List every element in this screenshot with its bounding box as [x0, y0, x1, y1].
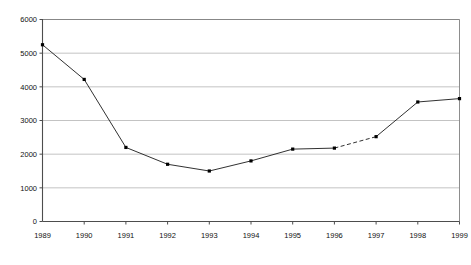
x-axis-ticks: 1989199019911992199319941995199619971998…	[34, 222, 468, 240]
data-line-segment	[168, 164, 210, 171]
gridlines-horizontal	[43, 20, 460, 188]
data-line-segment	[251, 149, 293, 161]
x-axis-tick-label: 1995	[284, 231, 301, 240]
y-axis-tick-label: 5000	[20, 49, 37, 58]
data-point-marker	[166, 163, 169, 166]
data-point-marker	[249, 159, 252, 162]
line-chart: 0100020003000400050006000198919901991199…	[0, 0, 471, 265]
y-axis-tick-label: 0	[33, 217, 37, 226]
data-line	[43, 45, 460, 171]
x-axis-tick-label: 1989	[34, 231, 51, 240]
data-line-segment	[209, 161, 251, 171]
data-line-segment	[334, 137, 376, 148]
data-line-segment	[418, 99, 460, 102]
data-line-segment	[43, 45, 85, 80]
data-point-marker	[416, 100, 419, 103]
data-point-marker	[83, 78, 86, 81]
x-axis-tick-label: 1990	[76, 231, 93, 240]
x-axis-tick-label: 1997	[368, 231, 385, 240]
data-point-marker	[333, 147, 336, 150]
data-point-marker	[41, 43, 44, 46]
y-axis-tick-label: 2000	[20, 150, 37, 159]
x-axis-tick-label: 1999	[451, 231, 468, 240]
data-line-segment	[84, 79, 126, 147]
y-axis-tick-label: 4000	[20, 83, 37, 92]
y-axis-tick-label: 6000	[20, 15, 37, 24]
chart-screenshot: 0100020003000400050006000198919901991199…	[0, 0, 471, 265]
y-axis-tick-label: 1000	[20, 184, 37, 193]
x-axis-tick-label: 1993	[201, 231, 218, 240]
x-axis-tick-label: 1992	[159, 231, 176, 240]
data-line-segment	[293, 148, 335, 149]
data-point-marker	[375, 135, 378, 138]
data-point-marker	[458, 97, 461, 100]
data-line-segment	[126, 147, 168, 164]
x-axis-tick-label: 1998	[409, 231, 426, 240]
data-point-marker	[124, 146, 127, 149]
x-axis-tick-label: 1991	[118, 231, 135, 240]
x-axis-tick-label: 1996	[326, 231, 343, 240]
y-axis-tick-label: 3000	[20, 116, 37, 125]
data-point-marker	[208, 169, 211, 172]
data-markers	[41, 43, 461, 172]
data-point-marker	[291, 148, 294, 151]
data-line-segment	[376, 102, 418, 137]
x-axis-tick-label: 1994	[243, 231, 260, 240]
y-axis-ticks: 0100020003000400050006000	[20, 15, 42, 226]
